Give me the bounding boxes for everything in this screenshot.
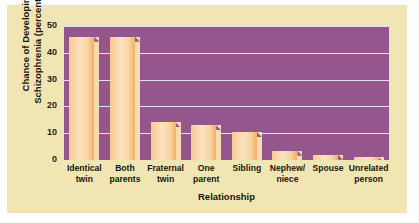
x-category-label-4: Oneparent xyxy=(186,163,227,184)
x-category-label-3: Fraternaltwin xyxy=(145,163,186,184)
bar-side-face xyxy=(135,37,140,160)
x-category-label-2: Bothparents xyxy=(105,163,146,184)
x-category-label-line1: Sibling xyxy=(232,163,261,173)
y-tick-label-10: 10 xyxy=(33,127,57,137)
x-category-label-line1: Both xyxy=(115,163,135,173)
bar-face xyxy=(191,125,217,160)
x-category-label-8: Unrelatedperson xyxy=(348,163,389,184)
bar-sibling xyxy=(232,132,258,160)
bar-face xyxy=(272,151,298,160)
x-category-label-line1: Fraternal xyxy=(147,163,184,173)
x-category-label-5: Sibling xyxy=(227,163,268,174)
bar-face xyxy=(232,132,258,160)
y-tick-label-50: 50 xyxy=(33,20,57,30)
x-category-label-line2: niece xyxy=(276,174,298,184)
x-category-label-line2: parent xyxy=(193,174,219,184)
x-category-label-line2: twin xyxy=(157,174,174,184)
bar-face xyxy=(354,157,380,160)
bar-face xyxy=(69,37,95,160)
x-category-label-line1: Unrelated xyxy=(349,163,389,173)
bar-nephew-niece xyxy=(272,151,298,160)
x-category-label-line1: Nephew/ xyxy=(270,163,305,173)
chart-figure: Chance of Developing Schizophrenia (perc… xyxy=(7,5,407,213)
y-tick-label-40: 40 xyxy=(33,47,57,57)
x-category-label-line1: Spouse xyxy=(313,163,344,173)
x-category-label-line2: person xyxy=(354,174,383,184)
x-axis-title: Relationship xyxy=(64,191,389,202)
bar-side-face xyxy=(216,125,221,160)
bar-spouse xyxy=(313,155,339,160)
bar-side-face xyxy=(176,122,181,160)
x-category-label-line2: twin xyxy=(76,174,93,184)
x-category-label-line1: One xyxy=(198,163,215,173)
x-category-label-7: Spouse xyxy=(308,163,349,174)
bar-identical-twin xyxy=(69,37,95,160)
plot-area xyxy=(64,26,389,160)
bar-unrelated-person xyxy=(354,157,380,160)
bar-one-parent xyxy=(191,125,217,160)
bar-side-face xyxy=(94,37,99,160)
x-category-label-line1: Identical xyxy=(67,163,102,173)
bar-face xyxy=(313,155,339,160)
y-axis-title: Chance of Developing Schizophrenia (perc… xyxy=(20,0,43,117)
y-axis-title-line1: Chance of Developing xyxy=(20,0,31,91)
x-category-label-6: Nephew/niece xyxy=(267,163,308,184)
y-tick-label-20: 20 xyxy=(33,100,57,110)
bar-face xyxy=(151,122,177,160)
bar-fraternal-twin xyxy=(151,122,177,160)
bar-face xyxy=(110,37,136,160)
y-tick-label-0: 0 xyxy=(33,154,57,164)
x-category-label-line2: parents xyxy=(109,174,140,184)
y-tick-label-30: 30 xyxy=(33,74,57,84)
gridline-50 xyxy=(64,26,389,27)
bar-both-parents xyxy=(110,37,136,160)
x-category-label-1: Identicaltwin xyxy=(64,163,105,184)
